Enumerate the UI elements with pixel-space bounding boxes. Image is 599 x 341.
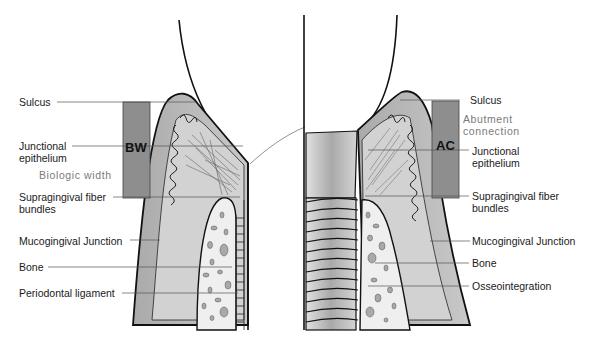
label-supragingival-fiber-bundles-right: Supragingival fiber bundles [472, 190, 572, 214]
ac-abbreviation: AC [436, 138, 455, 153]
label-mucogingival-junction-left: Mucogingival Junction [19, 235, 122, 247]
biologic-width-caption: Biologic width [39, 169, 112, 181]
label-supragingival-fiber-bundles-left: Supragingival fiber bundles [19, 191, 119, 215]
label-junctional-epithelium-left: Junctional epithelium [19, 140, 75, 164]
label-mucogingival-junction-right: Mucogingival Junction [472, 235, 575, 247]
label-periodontal-ligament: Periodontal ligament [19, 287, 115, 299]
natural-tooth-side [123, 20, 305, 330]
implant-side [306, 15, 470, 330]
label-osseointegration: Osseointegration [472, 280, 551, 292]
label-sulcus-left: Sulcus [19, 96, 51, 108]
label-sulcus-right: Sulcus [470, 94, 502, 106]
bw-abbreviation: BW [125, 140, 147, 155]
implant-abutment [306, 131, 357, 198]
label-bone-left: Bone [19, 261, 44, 273]
abutment-connection-caption: Abutment connection [463, 113, 533, 137]
label-junctional-epithelium-right: Junctional epithelium [472, 145, 532, 169]
label-bone-right: Bone [472, 257, 497, 269]
cej-curve [250, 127, 305, 164]
